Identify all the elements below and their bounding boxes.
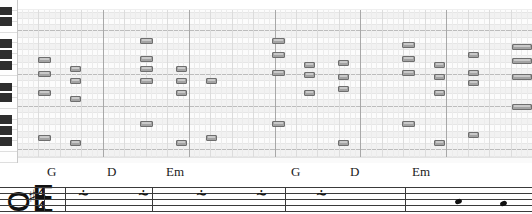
eighth-rest-icon[interactable]: ⸞ [196, 185, 207, 204]
piano-roll-note[interactable] [272, 121, 285, 127]
piano-roll-note[interactable] [338, 60, 349, 66]
grid-line [28, 0, 29, 163]
piano-roll-note[interactable] [272, 70, 285, 76]
piano-roll-note[interactable] [140, 78, 153, 84]
piano-roll-note[interactable] [402, 56, 415, 62]
piano-roll-editor[interactable] [0, 0, 532, 163]
grid-line [435, 0, 436, 163]
grid-line [130, 0, 131, 163]
eighth-rest-icon[interactable]: ⸞ [78, 185, 89, 204]
grid-line [167, 0, 168, 163]
piano-roll-note[interactable] [38, 71, 51, 77]
chord-symbol[interactable]: Em [166, 165, 184, 178]
piano-roll-note[interactable] [468, 70, 479, 76]
piano-roll-note[interactable] [272, 52, 285, 58]
piano-roll-note[interactable] [70, 78, 81, 84]
chord-symbol[interactable]: G [291, 165, 300, 178]
piano-roll-note[interactable] [140, 56, 153, 62]
eighth-rest-icon[interactable]: ⸞ [138, 185, 149, 204]
grid-line [376, 0, 377, 163]
piano-black-key[interactable] [0, 93, 12, 102]
staff-system[interactable]: ᴑE ♯ 4 4 ⸞⸞⸞⸞⸞ [0, 187, 532, 214]
piano-black-key[interactable] [0, 115, 12, 124]
grid-line [258, 0, 259, 163]
piano-roll-note[interactable] [176, 90, 187, 96]
notehead[interactable] [454, 198, 462, 205]
grid-line [119, 0, 120, 163]
piano-roll-note[interactable] [468, 52, 479, 58]
piano-roll-note[interactable] [70, 96, 81, 102]
grid-line [323, 0, 324, 163]
piano-black-key[interactable] [0, 83, 12, 92]
piano-roll-note[interactable] [402, 121, 415, 127]
piano-roll-note[interactable] [468, 132, 479, 138]
piano-roll-note[interactable] [512, 104, 532, 110]
chord-symbol[interactable]: D [350, 165, 359, 178]
eighth-rest-icon[interactable]: ⸞ [256, 185, 267, 204]
piano-roll-note[interactable] [512, 74, 532, 80]
grid-line [194, 0, 195, 163]
piano-roll-note[interactable] [140, 38, 153, 44]
piano-black-key[interactable] [0, 17, 12, 26]
grid-line [242, 0, 243, 163]
piano-roll-note[interactable] [38, 90, 51, 96]
piano-keyboard[interactable] [0, 0, 18, 163]
piano-black-key[interactable] [0, 7, 12, 16]
piano-black-key[interactable] [0, 61, 12, 70]
piano-roll-note[interactable] [434, 90, 445, 96]
piano-roll-note[interactable] [140, 121, 153, 127]
timeline-ruler[interactable] [17, 0, 532, 10]
piano-roll-note[interactable] [140, 66, 153, 72]
grid-line [419, 0, 420, 163]
grid-line [232, 0, 233, 163]
piano-roll-note[interactable] [38, 57, 51, 63]
piano-roll-note[interactable] [338, 140, 349, 146]
piano-roll-note[interactable] [206, 135, 217, 141]
piano-roll-note[interactable] [176, 140, 187, 146]
eighth-rest-icon[interactable]: ⸞ [316, 185, 327, 204]
piano-roll-note[interactable] [512, 44, 532, 50]
grid-line [312, 0, 313, 163]
piano-black-key[interactable] [0, 50, 12, 59]
piano-roll-note[interactable] [304, 90, 315, 96]
piano-roll-note[interactable] [304, 62, 315, 68]
piano-white-key[interactable] [0, 152, 17, 163]
piano-roll-note[interactable] [512, 58, 532, 64]
chord-symbol[interactable]: Em [412, 165, 430, 178]
grid-line [494, 0, 495, 163]
piano-black-key[interactable] [0, 39, 12, 48]
bar-line [189, 0, 190, 163]
piano-roll-note[interactable] [38, 135, 51, 141]
piano-roll-note[interactable] [338, 74, 349, 80]
grid-line [301, 0, 302, 163]
grid-line [484, 0, 485, 163]
grid-line [221, 0, 222, 163]
piano-roll-note[interactable] [304, 72, 315, 78]
grid-line [97, 0, 98, 163]
piano-roll-note[interactable] [206, 78, 217, 84]
piano-roll-note[interactable] [402, 70, 415, 76]
piano-roll-note[interactable] [272, 38, 285, 44]
piano-roll-note[interactable] [468, 80, 479, 86]
piano-roll-note[interactable] [338, 86, 349, 92]
grid-line [55, 0, 56, 163]
piano-roll-grid[interactable] [17, 0, 532, 163]
grid-line [285, 0, 286, 163]
chord-symbol[interactable]: G [47, 165, 56, 178]
chord-symbol[interactable]: D [107, 165, 116, 178]
piano-roll-note[interactable] [434, 74, 445, 80]
grid-line [135, 0, 136, 163]
piano-roll-note[interactable] [70, 66, 81, 72]
piano-roll-note[interactable] [434, 62, 445, 68]
piano-black-key[interactable] [0, 126, 12, 135]
piano-roll-note[interactable] [402, 42, 415, 48]
grid-line [414, 0, 415, 163]
grid-line [457, 0, 458, 163]
grid-line [162, 0, 163, 163]
piano-roll-note[interactable] [176, 78, 187, 84]
piano-roll-note[interactable] [176, 66, 187, 72]
piano-black-key[interactable] [0, 137, 12, 146]
music-notation-panel[interactable]: GDEmGDEm ᴑE ♯ 4 4 ⸞⸞⸞⸞⸞ [0, 163, 532, 214]
piano-roll-note[interactable] [434, 140, 445, 146]
piano-roll-note[interactable] [70, 140, 81, 146]
